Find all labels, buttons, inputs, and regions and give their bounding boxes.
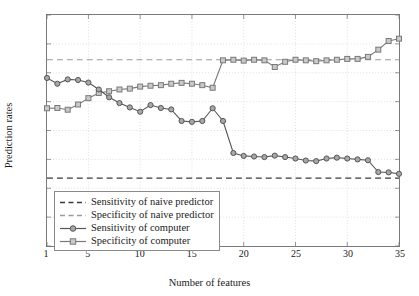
legend-key-line-circle-icon	[58, 221, 88, 234]
x-tick-label: 20	[239, 249, 249, 259]
legend-item[interactable]: Specificity of computer	[58, 234, 214, 247]
legend-label: Specificity of naive predictor	[91, 208, 214, 221]
legend-label: Sensitivity of computer	[91, 221, 190, 234]
legend-item[interactable]: Specificity of naive predictor	[58, 208, 214, 221]
x-tick-label: 35	[395, 249, 405, 259]
x-tick-label: 25	[291, 249, 301, 259]
legend-key-dash-light-icon	[58, 208, 88, 221]
legend-label: Sensitivity of naive predictor	[91, 195, 213, 208]
x-axis-label: Number of features	[0, 277, 419, 288]
x-tick-label: 30	[343, 249, 353, 259]
legend-item[interactable]: Sensitivity of naive predictor	[58, 195, 214, 208]
chart-figure: 0.20.30.40.50.60.70.80.91 15101520253035…	[0, 0, 419, 296]
legend-key-line-square-icon	[58, 234, 88, 247]
legend-item[interactable]: Sensitivity of computer	[58, 221, 214, 234]
chart-legend: Sensitivity of naive predictorSpecificit…	[54, 191, 220, 251]
y-axis-label: Prediction rates	[3, 76, 14, 196]
legend-label: Specificity of computer	[91, 234, 190, 247]
legend-key-dash-dark-icon	[58, 195, 88, 208]
x-tick-label: 1	[44, 249, 49, 259]
